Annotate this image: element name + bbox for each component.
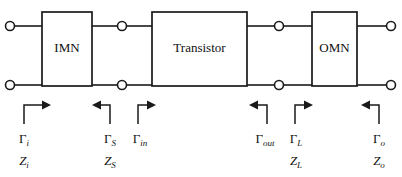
arrow-right-icon <box>147 101 156 110</box>
gamma-i-label: Γi <box>19 131 30 148</box>
input-port-leader <box>24 105 42 124</box>
arrow-left-icon <box>361 101 370 110</box>
annotation-output-port: Γo Zo <box>361 101 386 171</box>
gamma-in-label: Γin <box>133 131 148 148</box>
imn-label: IMN <box>54 40 80 55</box>
terminal-input-bottom[interactable] <box>6 81 15 90</box>
z-l-label: ZL <box>290 153 302 170</box>
arrow-right-icon <box>304 101 313 110</box>
terminal-mid-right-bottom[interactable] <box>275 81 284 90</box>
block-imn[interactable]: IMN <box>42 12 92 86</box>
transistor-output-leader <box>258 105 267 124</box>
annotation-input-port: Γi Zi <box>19 101 51 171</box>
arrow-right-icon <box>42 101 51 110</box>
annotation-transistor-output: Γout <box>249 101 275 149</box>
source-leader <box>101 105 110 124</box>
annotation-load: ΓL ZL <box>290 101 313 171</box>
gamma-s-label: ΓS <box>104 131 117 148</box>
annotation-transistor-input: Γin <box>133 101 156 149</box>
circuit-schematic-canvas: IMN Transistor OMN Γi Zi ΓS <box>0 0 402 177</box>
terminal-output-top[interactable] <box>387 22 396 31</box>
arrow-left-icon <box>92 101 101 110</box>
arrow-left-icon <box>249 101 258 110</box>
gamma-o-label: Γo <box>373 131 386 148</box>
circuit-diagram: IMN Transistor OMN Γi Zi ΓS <box>0 0 402 177</box>
output-port-leader <box>370 105 379 124</box>
omn-label: OMN <box>319 40 350 55</box>
block-omn[interactable]: OMN <box>312 12 357 86</box>
terminal-mid-left-top[interactable] <box>118 22 127 31</box>
terminal-input-top[interactable] <box>6 22 15 31</box>
annotation-source: ΓS ZS <box>92 101 117 171</box>
block-transistor[interactable]: Transistor <box>152 12 247 86</box>
z-s-label: ZS <box>104 153 116 170</box>
gamma-l-label: ΓL <box>290 131 303 148</box>
gamma-out-label: Γout <box>255 131 275 148</box>
terminal-output-bottom[interactable] <box>387 81 396 90</box>
terminal-mid-right-top[interactable] <box>275 22 284 31</box>
z-o-label: Zo <box>373 153 385 170</box>
terminal-mid-left-bottom[interactable] <box>118 81 127 90</box>
transistor-input-leader <box>138 105 147 124</box>
load-leader <box>295 105 304 124</box>
transistor-label: Transistor <box>173 40 226 55</box>
z-i-label: Zi <box>19 153 29 170</box>
